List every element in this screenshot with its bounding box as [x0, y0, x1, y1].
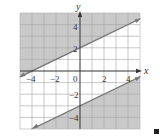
y-tick-label: −4 [69, 113, 79, 123]
x-tick-label: −4 [26, 74, 36, 84]
x-tick-label: 4 [126, 74, 131, 84]
y-axis-label: y [75, 1, 81, 12]
end-of-proof-mark [154, 129, 159, 134]
x-axis-label: x [143, 65, 149, 76]
x-tick-label: 0 [73, 74, 78, 84]
inequality-graph: x y −4 −2 0 2 4 4 2 −2 −4 [0, 0, 160, 137]
x-tick-label: −2 [50, 74, 60, 84]
x-tick-label: 2 [102, 74, 107, 84]
y-tick-label: 4 [73, 22, 78, 32]
y-tick-label: −2 [69, 90, 79, 100]
y-tick-label: 2 [73, 44, 78, 54]
